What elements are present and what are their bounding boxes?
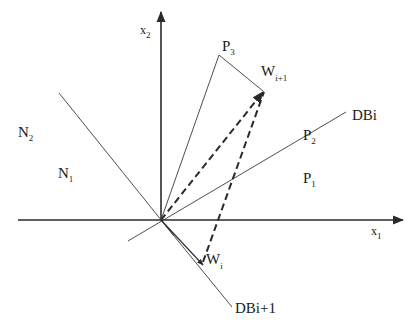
p3-vector-line: [161, 55, 219, 220]
region-p2-label: P2: [303, 127, 316, 146]
x-axis-label: x1: [371, 224, 382, 241]
weight-update-diagram: x2 x1 N2 N1 P1 P2 P3 DBi DBi+1 Wi Wi+1: [0, 0, 418, 327]
region-p1-label: P1: [303, 170, 316, 189]
region-p3-label: P3: [222, 38, 235, 57]
p3-to-wi1-line: [219, 55, 263, 91]
y-axis-label: x2: [140, 23, 151, 40]
region-n1-label: N1: [58, 165, 73, 184]
wi-vector: [161, 220, 203, 265]
n-boundary-line: [59, 93, 174, 236]
wi1-label: Wi+1: [261, 63, 287, 83]
dbi-plus-1-label: DBi+1: [235, 300, 276, 316]
wi1-dashed-from-origin: [161, 92, 263, 220]
dbi-label: DBi: [352, 107, 377, 123]
wi-to-wi1-dashed: [203, 92, 264, 262]
region-n2-label: N2: [18, 124, 33, 143]
wi-label: Wi: [206, 251, 223, 271]
